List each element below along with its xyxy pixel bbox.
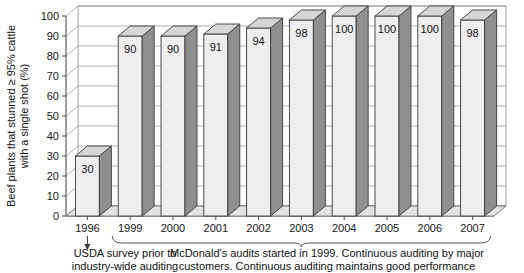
x-tick-label-2004: 2004 — [332, 222, 356, 234]
bar-2004 — [332, 6, 368, 216]
y-tick-label-50: 50 — [47, 110, 59, 122]
y-tick-label-30: 30 — [47, 150, 59, 162]
y-tick-label-10: 10 — [47, 190, 59, 202]
bar-side-2004 — [356, 6, 368, 216]
left-caption-line1: USDA survey prior to — [74, 247, 177, 259]
annotation-brace — [112, 236, 490, 247]
x-tick-label-2003: 2003 — [289, 222, 313, 234]
bar-side-2001 — [228, 24, 240, 216]
bar-1996 — [75, 146, 111, 216]
bar-value-label-1999: 90 — [124, 43, 136, 55]
bar-side-2003 — [313, 10, 325, 216]
bar-side-1999 — [142, 26, 154, 216]
chart-figure: 0102030405060708090100301996901999902000… — [0, 0, 524, 273]
bar-value-label-2000: 90 — [167, 43, 179, 55]
y-tick-label-0: 0 — [53, 210, 59, 222]
left-caption-line2: industry-wide auditing — [72, 260, 178, 272]
bar-front-1999 — [118, 36, 142, 216]
x-tick-label-2005: 2005 — [375, 222, 399, 234]
gridline-depth-80 — [66, 46, 78, 56]
y-axis-title-line2: with a single shot (%) — [18, 64, 30, 170]
gridline-depth-70 — [66, 66, 78, 76]
y-tick-label-80: 80 — [47, 50, 59, 62]
x-tick-label-1999: 1999 — [118, 222, 142, 234]
gridline-depth-50 — [66, 106, 78, 116]
x-tick-label-1996: 1996 — [75, 222, 99, 234]
y-tick-label-90: 90 — [47, 30, 59, 42]
y-tick-label-60: 60 — [47, 90, 59, 102]
x-tick-label-2002: 2002 — [246, 222, 270, 234]
bar-front-2007 — [461, 20, 485, 216]
bar-value-label-2002: 94 — [252, 35, 264, 47]
gridline-depth-100 — [66, 6, 78, 16]
bar-side-2007 — [485, 10, 497, 216]
y-tick-label-40: 40 — [47, 130, 59, 142]
annotations: USDA survey prior toindustry-wide auditi… — [72, 236, 491, 272]
bar-side-2006 — [442, 6, 454, 216]
bar-value-label-2004: 100 — [335, 23, 353, 35]
x-tick-label-2007: 2007 — [460, 222, 484, 234]
x-tick-label-2000: 2000 — [161, 222, 185, 234]
bar-2003 — [289, 10, 325, 216]
bar-2007 — [461, 10, 497, 216]
bar-front-2006 — [418, 16, 442, 216]
bar-side-2000 — [185, 26, 197, 216]
y-tick-label-100: 100 — [41, 10, 59, 22]
y-axis-title-line1: Beef plants that stunned ≥ 95% cattle — [5, 25, 17, 207]
bar-front-2003 — [289, 20, 313, 216]
bar-value-label-1996: 30 — [81, 163, 93, 175]
y-tick-label-20: 20 — [47, 170, 59, 182]
gridline-depth-90 — [66, 26, 78, 36]
right-caption-line2: customers. Continuous auditing maintains… — [179, 260, 476, 272]
bar-side-2002 — [271, 18, 283, 216]
y-tick-label-70: 70 — [47, 70, 59, 82]
x-tick-label-2001: 2001 — [204, 222, 228, 234]
gridline-depth-40 — [66, 126, 78, 136]
bar-side-1996 — [99, 146, 111, 216]
bar-2005 — [375, 6, 411, 216]
bar-front-2000 — [161, 36, 185, 216]
bar-value-label-2005: 100 — [378, 23, 396, 35]
bar-2006 — [418, 6, 454, 216]
bar-value-label-2007: 98 — [466, 27, 478, 39]
bar-value-label-2006: 100 — [421, 23, 439, 35]
bar-value-label-2003: 98 — [295, 27, 307, 39]
bar-front-2001 — [204, 34, 228, 216]
gridline-depth-60 — [66, 86, 78, 96]
gridline-depth-30 — [66, 146, 78, 156]
bar-value-label-2001: 91 — [210, 41, 222, 53]
bar-2002 — [247, 18, 283, 216]
bar-front-2005 — [375, 16, 399, 216]
x-tick-label-2006: 2006 — [418, 222, 442, 234]
bar-front-2002 — [247, 28, 271, 216]
bar-side-2005 — [399, 6, 411, 216]
bar-chart: 0102030405060708090100301996901999902000… — [0, 0, 524, 273]
bar-front-2004 — [332, 16, 356, 216]
y-axis-title: Beef plants that stunned ≥ 95% cattlewit… — [5, 25, 30, 207]
right-caption-line1: McDonald's audits started in 1999. Conti… — [170, 247, 484, 259]
